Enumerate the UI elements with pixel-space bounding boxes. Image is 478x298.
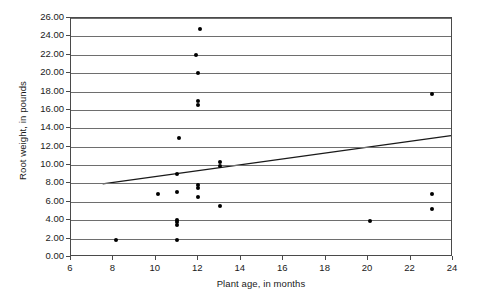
x-tick-mark [240, 256, 241, 260]
y-tick-mark [66, 109, 70, 110]
gridline [71, 202, 451, 203]
y-tick-mark [66, 182, 70, 183]
gridline [71, 18, 451, 19]
x-tick-mark [197, 256, 198, 260]
gridline [71, 92, 451, 93]
trendline-segment [103, 136, 451, 184]
data-point [177, 136, 181, 140]
gridline [71, 73, 451, 74]
gridline [71, 147, 451, 148]
y-tick-mark [66, 54, 70, 55]
data-point [194, 53, 198, 57]
x-tick-label: 10 [138, 262, 172, 273]
gridline [71, 110, 451, 111]
data-point [196, 99, 200, 103]
y-tick-mark [66, 201, 70, 202]
x-tick-mark [155, 256, 156, 260]
data-point [218, 204, 222, 208]
data-point [196, 183, 200, 187]
y-tick-label: 26.00 [6, 12, 64, 22]
data-point [175, 172, 179, 176]
y-tick-mark [66, 91, 70, 92]
y-tick-label: 0.00 [6, 251, 64, 261]
y-tick-label: 6.00 [6, 196, 64, 206]
data-point [156, 192, 160, 196]
data-point [175, 218, 179, 222]
y-tick-mark [66, 164, 70, 165]
data-point [368, 219, 372, 223]
x-tick-mark [112, 256, 113, 260]
data-point [430, 207, 434, 211]
data-point [430, 92, 434, 96]
x-tick-mark [410, 256, 411, 260]
y-tick-mark [66, 238, 70, 239]
gridline [71, 165, 451, 166]
y-tick-mark [66, 17, 70, 18]
y-tick-label: 14.00 [6, 122, 64, 132]
plot-area [70, 17, 452, 256]
y-tick-label: 24.00 [6, 30, 64, 40]
y-tick-mark [66, 35, 70, 36]
data-point [198, 27, 202, 31]
x-tick-label: 8 [95, 262, 129, 273]
x-tick-mark [70, 256, 71, 260]
y-tick-mark [66, 219, 70, 220]
data-point [196, 71, 200, 75]
data-point [175, 190, 179, 194]
y-tick-label: 4.00 [6, 214, 64, 224]
data-point [218, 160, 222, 164]
gridline [71, 36, 451, 37]
x-tick-label: 24 [435, 262, 469, 273]
x-axis-title: Plant age, in months [70, 278, 452, 289]
y-tick-label: 18.00 [6, 86, 64, 96]
x-tick-mark [367, 256, 368, 260]
y-tick-mark [66, 72, 70, 73]
x-tick-label: 12 [180, 262, 214, 273]
gridline [71, 55, 451, 56]
gridline [71, 183, 451, 184]
x-tick-mark [325, 256, 326, 260]
data-point [196, 195, 200, 199]
y-tick-mark [66, 146, 70, 147]
y-tick-label: 8.00 [6, 177, 64, 187]
data-point [196, 103, 200, 107]
x-tick-mark [282, 256, 283, 260]
gridline [71, 128, 451, 129]
x-tick-label: 16 [265, 262, 299, 273]
gridline [71, 220, 451, 221]
scatter-chart: Root weight, in pounds Plant age, in mon… [0, 0, 478, 298]
data-point [175, 238, 179, 242]
data-point [114, 238, 118, 242]
y-tick-label: 20.00 [6, 67, 64, 77]
y-tick-label: 16.00 [6, 104, 64, 114]
y-tick-label: 12.00 [6, 141, 64, 151]
x-tick-label: 14 [223, 262, 257, 273]
x-tick-mark [452, 256, 453, 260]
y-tick-mark [66, 127, 70, 128]
x-tick-label: 22 [393, 262, 427, 273]
x-tick-label: 20 [350, 262, 384, 273]
y-tick-label: 2.00 [6, 233, 64, 243]
gridline [71, 239, 451, 240]
x-tick-label: 6 [53, 262, 87, 273]
x-tick-label: 18 [308, 262, 342, 273]
y-tick-label: 22.00 [6, 49, 64, 59]
data-point [430, 192, 434, 196]
y-tick-label: 10.00 [6, 159, 64, 169]
data-point [218, 164, 222, 168]
